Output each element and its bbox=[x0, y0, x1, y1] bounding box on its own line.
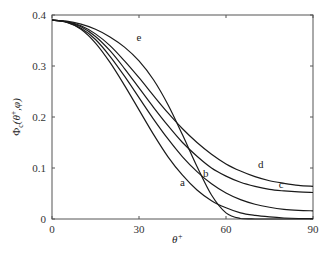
plot-area: 030609000.10.20.30.4edcbaθ+Φc(θ+,φ) bbox=[9, 9, 319, 245]
y-tick-label: 0.2 bbox=[32, 111, 46, 123]
curve-c bbox=[52, 20, 313, 192]
x-tick-label: 60 bbox=[221, 223, 233, 235]
curve-e bbox=[52, 20, 313, 219]
curve-label-c: c bbox=[279, 178, 284, 190]
x-tick-label: 30 bbox=[134, 223, 146, 235]
y-tick-label: 0.4 bbox=[32, 9, 46, 21]
curve-label-d: d bbox=[258, 158, 264, 170]
y-tick-label: 0.1 bbox=[32, 162, 46, 174]
curve-label-b: b bbox=[203, 167, 209, 179]
x-axis-label: θ+ bbox=[172, 232, 183, 245]
y-tick-label: 0 bbox=[41, 213, 47, 225]
x-tick-label: 0 bbox=[49, 223, 55, 235]
curve-label-a: a bbox=[180, 176, 185, 188]
curve-d bbox=[52, 20, 313, 186]
curve-label-e: e bbox=[137, 31, 142, 43]
axes-frame bbox=[52, 15, 313, 219]
chart: 030609000.10.20.30.4edcbaθ+Φc(θ+,φ) bbox=[0, 0, 332, 257]
y-tick-label: 0.3 bbox=[32, 60, 46, 72]
y-axis-label: Φc(θ+,φ) bbox=[9, 98, 25, 136]
curve-a bbox=[52, 20, 313, 218]
x-tick-label: 90 bbox=[308, 223, 320, 235]
